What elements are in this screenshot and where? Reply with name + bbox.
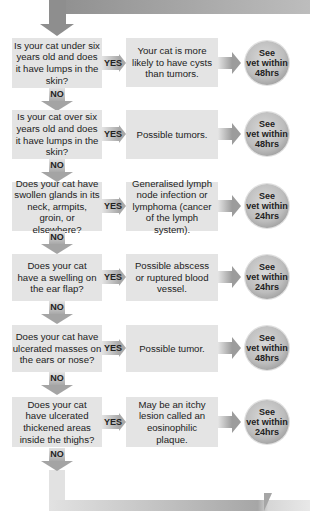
no-arrow-3: NO — [41, 231, 73, 255]
action-text: 48hrs — [246, 68, 288, 78]
right-arrow-icon — [218, 266, 241, 288]
action-text: 24hrs — [246, 211, 288, 221]
answer-box-4: Possible abscess or ruptured blood vesse… — [126, 254, 218, 301]
action-circle-4: Seevet within24hrs — [245, 255, 289, 299]
question-box-2: Is your cat over six years old and does … — [12, 110, 102, 159]
no-label: NO — [49, 160, 65, 170]
question-box-5: Does your cat have ulcerated masses on t… — [12, 325, 102, 372]
yes-arrow-3: YES — [102, 196, 126, 216]
answer-text: Generalised lymph node infection or lymp… — [129, 178, 215, 236]
yes-label: YES — [104, 343, 122, 353]
action-text: vet within — [246, 343, 288, 353]
yes-arrow-1: YES — [102, 53, 126, 73]
no-label: NO — [49, 89, 65, 99]
answer-text: May be an itchy lesion called an eosinop… — [130, 399, 214, 445]
action-text: See — [246, 191, 288, 201]
question-text: Does your cat have swollen glands in its… — [14, 178, 100, 236]
no-label: NO — [49, 449, 65, 459]
yes-label: YES — [104, 417, 122, 427]
yes-label: YES — [104, 129, 122, 139]
yes-label: YES — [104, 201, 122, 211]
no-arrow-4: NO — [41, 301, 73, 325]
question-text: Does your cat have a swelling on the ear… — [17, 260, 97, 295]
action-text: See — [246, 48, 288, 58]
answer-box-5: Possible tumor. — [126, 325, 218, 372]
action-circle-3: Seevet within24hrs — [245, 184, 289, 228]
action-text: vet within — [246, 417, 288, 427]
right-arrow-icon — [218, 411, 241, 433]
answer-box-2: Possible tumors. — [126, 110, 218, 159]
right-arrow-icon — [264, 493, 272, 511]
yes-arrow-2: YES — [102, 124, 126, 144]
yes-arrow-6: YES — [102, 412, 126, 432]
question-text: Does your cat have ulcerated masses on t… — [12, 331, 102, 366]
question-box-1: Is your cat under six years old and does… — [12, 38, 102, 88]
right-arrow-icon — [218, 52, 241, 74]
right-arrow-icon — [218, 337, 241, 359]
no-label: NO — [49, 302, 65, 312]
no-arrow-5: NO — [41, 372, 73, 396]
question-box-4: Does your cat have a swelling on the ear… — [12, 254, 102, 301]
yes-label: YES — [104, 272, 122, 282]
answer-text: Your cat is more likely to have cysts th… — [130, 45, 214, 80]
action-text: See — [246, 333, 288, 343]
question-box-3: Does your cat have swollen glands in its… — [12, 182, 102, 231]
action-text: See — [246, 262, 288, 272]
no-arrow-6: NO — [41, 448, 73, 472]
yes-label: YES — [104, 58, 122, 68]
action-text: vet within — [246, 272, 288, 282]
question-text: Is your cat over six years old and does … — [14, 111, 100, 157]
no-label: NO — [49, 232, 65, 242]
action-text: 24hrs — [246, 282, 288, 292]
answer-text: Possible abscess or ruptured blood vesse… — [133, 260, 211, 295]
action-text: vet within — [246, 201, 288, 211]
action-circle-2: Seevet within48hrs — [245, 112, 289, 156]
answer-text: Possible tumor. — [130, 343, 214, 355]
action-circle-1: Seevet within48hrs — [245, 41, 289, 85]
action-text: 24hrs — [246, 427, 288, 437]
answer-box-1: Your cat is more likely to have cysts th… — [126, 38, 218, 87]
answer-box-6: May be an itchy lesion called an eosinop… — [126, 397, 218, 447]
answer-text: Possible tumors. — [130, 129, 214, 141]
top-connector-stem — [49, 0, 66, 24]
action-circle-5: Seevet within48hrs — [245, 326, 289, 370]
right-arrow-icon — [218, 195, 241, 217]
top-connector-bar — [49, 0, 310, 14]
action-text: vet within — [246, 129, 288, 139]
yes-arrow-5: YES — [102, 338, 126, 358]
no-label: NO — [49, 373, 65, 383]
question-box-6: Does your cat have ulcerated thickened a… — [12, 397, 102, 447]
question-text: Does your cat have ulcerated thickened a… — [17, 399, 97, 445]
action-text: See — [246, 119, 288, 129]
action-text: 48hrs — [246, 139, 288, 149]
question-text: Is your cat under six years old and does… — [14, 40, 100, 86]
action-text: See — [246, 407, 288, 417]
right-arrow-icon — [218, 123, 241, 145]
yes-arrow-4: YES — [102, 267, 126, 287]
action-text: vet within — [246, 58, 288, 68]
no-arrow-1: NO — [41, 88, 73, 112]
down-arrow-icon — [40, 24, 74, 36]
answer-box-3: Generalised lymph node infection or lymp… — [126, 182, 218, 231]
action-circle-6: Seevet within24hrs — [245, 400, 289, 444]
action-text: 48hrs — [246, 353, 288, 363]
